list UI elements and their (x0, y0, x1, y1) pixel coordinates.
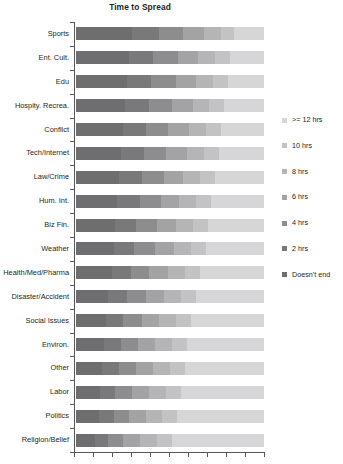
bar-segment (121, 338, 138, 351)
category-label: Environ. (42, 341, 69, 349)
bar-segment (132, 386, 149, 399)
bar-segment (119, 362, 136, 375)
bar-segment (211, 195, 264, 208)
bar-segment (138, 338, 155, 351)
legend-label: 2 hrs (292, 245, 308, 253)
y-tick (70, 356, 74, 357)
bar-segment (146, 410, 163, 423)
bar-segment (76, 195, 117, 208)
x-tick (188, 453, 189, 457)
bar-segment (153, 51, 177, 64)
y-tick (70, 285, 74, 286)
bar-segment (176, 219, 193, 232)
legend-item[interactable]: >= 12 hrs (282, 115, 343, 125)
bar-segment (221, 27, 234, 40)
bar-segment (146, 123, 169, 136)
bar-segment (159, 27, 183, 40)
bar-segment (196, 290, 264, 303)
bar-row (76, 338, 264, 351)
bar-segment (170, 362, 185, 375)
bar-segment (176, 75, 197, 88)
category-label: Edu (56, 78, 69, 86)
bar-segment (108, 434, 123, 447)
bar-segment (181, 290, 196, 303)
bar-segment (200, 266, 264, 279)
y-axis-line (74, 22, 75, 453)
category-label: Hospity. Recrea. (15, 102, 69, 110)
legend-item[interactable]: 4 hrs (282, 218, 343, 228)
bar-segment (191, 242, 206, 255)
bar-segment (178, 51, 199, 64)
category-label: Other (51, 364, 69, 372)
bar-segment (125, 99, 149, 112)
chart-title: Time to Spread (0, 2, 280, 12)
category-label: Hum. Int. (39, 197, 69, 205)
category-label: Health/Med/Pharma (3, 269, 69, 277)
x-tick (245, 453, 246, 457)
x-tick (131, 453, 132, 457)
y-tick (70, 165, 74, 166)
bar-segment (123, 123, 146, 136)
bar-segment (115, 219, 136, 232)
bar-segment (185, 266, 200, 279)
bar-segment (187, 147, 204, 160)
bar-segment (108, 290, 127, 303)
legend-swatch-icon (282, 118, 287, 123)
bar-segment (155, 242, 174, 255)
bar-segment (183, 171, 200, 184)
legend-item[interactable]: 8 hrs (282, 167, 343, 177)
bar-segment (209, 99, 224, 112)
bar-segment (176, 314, 191, 327)
legend-label: 4 hrs (292, 219, 308, 227)
bar-row (76, 386, 264, 399)
legend-item[interactable]: 10 hrs (282, 141, 343, 151)
y-tick (70, 189, 74, 190)
bar-segment (172, 434, 264, 447)
category-label: Sports (48, 30, 69, 38)
category-label: Biz Fin. (44, 221, 69, 229)
bar-segment (187, 338, 264, 351)
bar-row (76, 99, 264, 112)
bar-segment (153, 362, 170, 375)
x-tick (112, 453, 113, 457)
y-tick (70, 141, 74, 142)
bar-segment (149, 386, 166, 399)
bar-segment (123, 434, 140, 447)
x-tick (264, 453, 265, 457)
legend-label: 8 hrs (292, 168, 308, 176)
y-tick (70, 309, 74, 310)
bar-segment (230, 51, 264, 64)
bar-segment (166, 386, 181, 399)
bar-segment (76, 123, 123, 136)
bar-segment (131, 266, 150, 279)
bar-segment (215, 171, 264, 184)
bar-segment (181, 386, 264, 399)
bar-segment (76, 75, 127, 88)
time-to-spread-chart: Time to Spread SportsEnt. Cult.EduHospit… (0, 0, 343, 464)
bar-segment (193, 219, 208, 232)
bar-segment (76, 410, 99, 423)
bar-segment (76, 314, 106, 327)
bar-segment (168, 266, 185, 279)
legend-item[interactable]: 6 hrs (282, 192, 343, 202)
bar-segment (76, 290, 108, 303)
bar-row (76, 123, 264, 136)
bar-segment (162, 410, 177, 423)
bar-segment (121, 147, 144, 160)
bar-segment (215, 51, 230, 64)
y-tick (70, 94, 74, 95)
bar-segment (136, 219, 157, 232)
bar-segment (204, 27, 221, 40)
bar-segment (129, 410, 146, 423)
bar-segment (142, 171, 165, 184)
category-label: Ent. Cult. (39, 54, 69, 62)
bar-segment (119, 171, 142, 184)
bar-segment (99, 410, 114, 423)
bar-segment (166, 147, 187, 160)
bar-segment (115, 386, 132, 399)
legend-item[interactable]: Doesn't end (282, 270, 343, 280)
bars-container (76, 22, 264, 452)
legend-item[interactable]: 2 hrs (282, 244, 343, 254)
bar-segment (146, 290, 165, 303)
bar-segment (114, 410, 129, 423)
